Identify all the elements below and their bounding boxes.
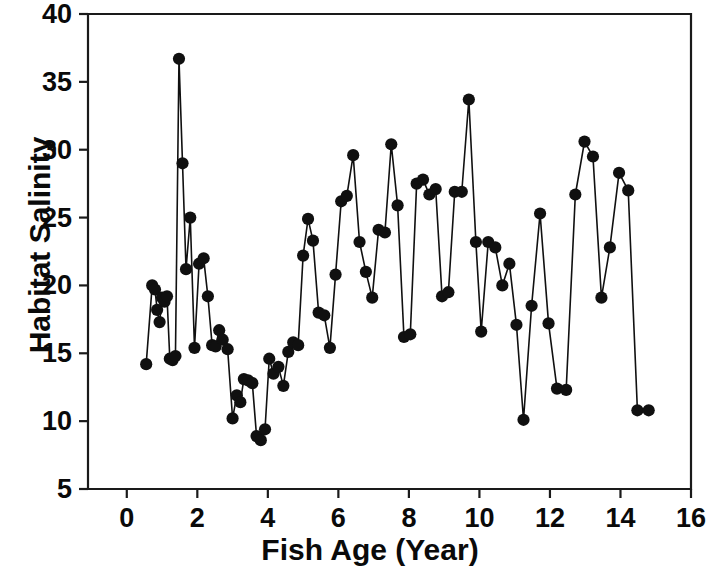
data-markers bbox=[140, 53, 655, 447]
data-point bbox=[578, 135, 590, 147]
data-point bbox=[184, 211, 196, 223]
data-point bbox=[392, 199, 404, 211]
data-point bbox=[198, 252, 210, 264]
data-point bbox=[263, 353, 275, 365]
data-point bbox=[292, 339, 304, 351]
data-point bbox=[272, 361, 284, 373]
data-point bbox=[234, 396, 246, 408]
data-point bbox=[379, 226, 391, 238]
data-point bbox=[475, 325, 487, 337]
data-point bbox=[226, 412, 238, 424]
data-point bbox=[140, 358, 152, 370]
data-point bbox=[622, 184, 634, 196]
data-point bbox=[430, 183, 442, 195]
data-point bbox=[560, 384, 572, 396]
data-point bbox=[542, 317, 554, 329]
data-point bbox=[353, 236, 365, 248]
data-point bbox=[161, 290, 173, 302]
data-point bbox=[442, 286, 454, 298]
data-point bbox=[202, 290, 214, 302]
data-point bbox=[534, 207, 546, 219]
data-point bbox=[463, 93, 475, 105]
data-point bbox=[595, 292, 607, 304]
data-point bbox=[470, 236, 482, 248]
data-point bbox=[277, 380, 289, 392]
data-point bbox=[631, 404, 643, 416]
data-point bbox=[188, 342, 200, 354]
data-point bbox=[385, 138, 397, 150]
data-point bbox=[517, 414, 529, 426]
data-point bbox=[324, 342, 336, 354]
data-point bbox=[341, 190, 353, 202]
data-point bbox=[417, 173, 429, 185]
data-point bbox=[297, 249, 309, 261]
data-point bbox=[153, 316, 165, 328]
data-line bbox=[146, 59, 649, 440]
data-point bbox=[360, 266, 372, 278]
data-point bbox=[169, 350, 181, 362]
data-point bbox=[329, 268, 341, 280]
data-point bbox=[259, 423, 271, 435]
chart-figure: Habitat Salinity Fish Age (Year) 5101520… bbox=[0, 0, 710, 585]
data-point bbox=[176, 157, 188, 169]
data-point bbox=[366, 292, 378, 304]
data-point bbox=[643, 404, 655, 416]
data-point bbox=[489, 241, 501, 253]
data-point bbox=[307, 235, 319, 247]
data-point bbox=[222, 343, 234, 355]
data-point bbox=[503, 258, 515, 270]
data-point bbox=[510, 319, 522, 331]
data-point bbox=[246, 377, 258, 389]
data-point bbox=[302, 213, 314, 225]
data-point bbox=[569, 188, 581, 200]
data-point bbox=[180, 263, 192, 275]
data-point bbox=[456, 186, 468, 198]
data-point bbox=[318, 309, 330, 321]
data-point bbox=[604, 241, 616, 253]
data-point bbox=[526, 300, 538, 312]
data-point bbox=[173, 53, 185, 65]
data-point bbox=[347, 149, 359, 161]
data-point bbox=[404, 328, 416, 340]
data-point bbox=[587, 150, 599, 162]
data-point bbox=[613, 167, 625, 179]
data-point bbox=[255, 434, 267, 446]
plot-area bbox=[0, 0, 710, 585]
data-point bbox=[496, 279, 508, 291]
